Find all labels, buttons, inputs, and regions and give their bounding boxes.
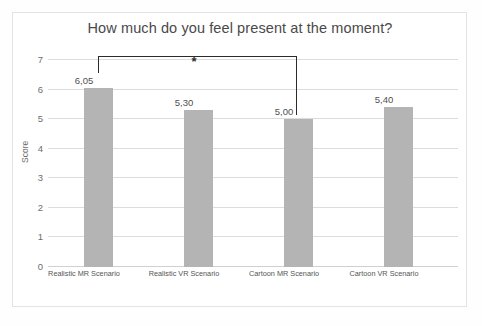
bar-value-label: 5,30 [157,97,211,108]
gridline-7: 7 [48,59,458,60]
bar-realistic-vr[interactable] [184,110,213,267]
significance-bracket-right [296,56,297,115]
bar-realistic-mr[interactable] [84,88,113,267]
y-tick-label: 1 [27,231,43,242]
bar-cartoon-mr[interactable] [284,119,313,267]
y-tick-label: 3 [27,172,43,183]
bar-value-label: 5,00 [257,106,311,117]
significance-bracket-left [98,56,99,73]
x-axis-label-realistic-vr: Realistic VR Scenario [132,269,236,278]
y-tick-label: 5 [27,113,43,124]
y-tick-label: 4 [27,142,43,153]
y-tick-label: 6 [27,83,43,94]
chart-title: How much do you feel present at the mome… [40,20,440,36]
x-axis-label-cartoon-vr: Cartoon VR Scenario [332,269,436,278]
x-axis-label-realistic-mr: Realistic MR Scenario [32,269,136,278]
bar-cartoon-vr[interactable] [384,107,413,267]
x-axis-label-cartoon-mr: Cartoon MR Scenario [232,269,336,278]
significance-asterisk: * [186,54,202,70]
y-tick-label: 7 [27,54,43,65]
bar-value-label: 6,05 [57,75,111,86]
plot-area: 7 6 5 4 3 2 1 0 [48,60,458,267]
bar-chart: How much do you feel present at the mome… [0,0,482,326]
bar-value-label: 5,40 [357,94,411,105]
y-tick-label: 2 [27,201,43,212]
